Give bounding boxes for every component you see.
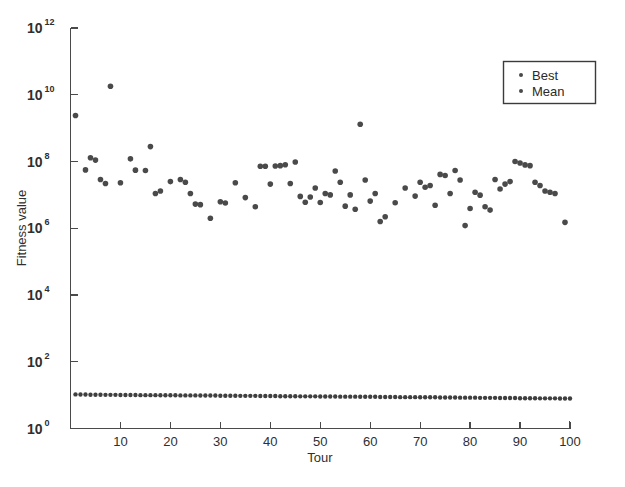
data-point bbox=[502, 181, 508, 187]
data-point bbox=[452, 168, 458, 174]
data-point bbox=[457, 177, 463, 183]
data-point bbox=[73, 392, 77, 396]
data-point bbox=[467, 206, 473, 212]
data-point bbox=[393, 395, 397, 399]
y-tick-label: 10 bbox=[27, 354, 43, 370]
data-point bbox=[193, 201, 199, 207]
data-point bbox=[427, 183, 433, 189]
data-point bbox=[103, 393, 107, 397]
data-point bbox=[517, 160, 523, 166]
data-point bbox=[392, 200, 398, 206]
data-point bbox=[133, 393, 137, 397]
data-point bbox=[113, 393, 117, 397]
data-point bbox=[303, 394, 307, 398]
y-tick-exponent: 12 bbox=[45, 17, 55, 27]
data-point bbox=[323, 394, 327, 398]
data-point bbox=[93, 393, 97, 397]
data-point bbox=[483, 396, 487, 400]
data-point bbox=[468, 395, 472, 399]
data-point bbox=[198, 202, 204, 208]
y-tick-exponent: 6 bbox=[45, 217, 50, 227]
data-point bbox=[278, 394, 282, 398]
data-point bbox=[287, 181, 293, 187]
data-point bbox=[563, 396, 567, 400]
data-point bbox=[108, 83, 114, 89]
data-point bbox=[318, 394, 322, 398]
data-point bbox=[298, 394, 302, 398]
data-point bbox=[193, 393, 197, 397]
legend-marker-best bbox=[519, 73, 523, 77]
data-point bbox=[418, 395, 422, 399]
y-tick-label: 10 bbox=[27, 220, 43, 236]
data-point bbox=[473, 395, 477, 399]
data-point bbox=[492, 177, 498, 183]
data-point bbox=[283, 394, 287, 398]
data-point bbox=[508, 396, 512, 400]
data-point bbox=[443, 395, 447, 399]
data-point bbox=[143, 168, 149, 174]
data-point bbox=[223, 394, 227, 398]
legend[interactable]: Best Mean bbox=[504, 62, 596, 104]
y-tick-exponent: 8 bbox=[45, 151, 50, 161]
y-tick-label: 10 bbox=[27, 421, 43, 437]
data-point bbox=[558, 396, 562, 400]
data-point bbox=[533, 396, 537, 400]
data-point bbox=[188, 191, 194, 197]
data-point bbox=[417, 179, 423, 185]
data-point bbox=[477, 192, 483, 198]
data-point bbox=[148, 144, 154, 150]
data-point bbox=[307, 194, 313, 200]
y-tick-exponent: 2 bbox=[45, 351, 50, 361]
data-point bbox=[403, 395, 407, 399]
data-point bbox=[523, 396, 527, 400]
data-point bbox=[158, 393, 162, 397]
data-point bbox=[503, 396, 507, 400]
data-point bbox=[348, 394, 352, 398]
data-point bbox=[332, 168, 338, 174]
y-tick-exponent: 0 bbox=[45, 418, 50, 428]
x-tick-label: 40 bbox=[263, 434, 277, 449]
axes bbox=[71, 28, 571, 429]
data-point bbox=[342, 203, 348, 209]
data-point bbox=[253, 394, 257, 398]
data-point bbox=[352, 206, 358, 212]
data-point bbox=[367, 198, 373, 204]
data-point bbox=[398, 395, 402, 399]
data-point bbox=[383, 395, 387, 399]
y-tick-exponent: 10 bbox=[45, 84, 55, 94]
data-point bbox=[373, 395, 377, 399]
data-point bbox=[372, 191, 378, 197]
data-point bbox=[123, 393, 127, 397]
data-point bbox=[487, 207, 493, 213]
data-point bbox=[263, 394, 267, 398]
data-point bbox=[412, 193, 418, 199]
data-point bbox=[388, 395, 392, 399]
data-point bbox=[223, 200, 229, 206]
legend-label-best: Best bbox=[532, 68, 558, 83]
x-tick-label: 90 bbox=[513, 434, 527, 449]
data-point bbox=[83, 167, 89, 173]
series-mean-points bbox=[73, 83, 568, 228]
data-point bbox=[297, 194, 303, 200]
y-axis-title: Fitness value bbox=[14, 190, 29, 267]
data-point bbox=[272, 163, 278, 169]
series-best-points bbox=[73, 392, 572, 401]
data-point bbox=[497, 186, 503, 192]
figure-container: 10121010108106104102100 1020304050607080… bbox=[0, 0, 625, 487]
data-point bbox=[482, 204, 488, 210]
data-point bbox=[333, 394, 337, 398]
data-point bbox=[337, 179, 343, 185]
data-point bbox=[528, 396, 532, 400]
data-point bbox=[327, 192, 333, 198]
data-point bbox=[277, 163, 283, 169]
data-point bbox=[543, 396, 547, 400]
data-point bbox=[532, 179, 538, 185]
data-point bbox=[378, 395, 382, 399]
data-point bbox=[322, 191, 328, 197]
data-point bbox=[233, 180, 239, 186]
data-point bbox=[133, 167, 139, 173]
data-point bbox=[273, 394, 277, 398]
x-axis-ticks: 102030405060708090100 bbox=[113, 422, 581, 449]
x-tick-label: 30 bbox=[213, 434, 227, 449]
x-tick-label: 50 bbox=[313, 434, 327, 449]
